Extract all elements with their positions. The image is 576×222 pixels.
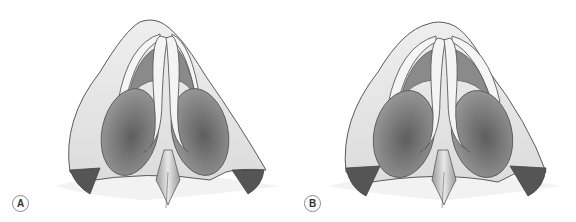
panel-label-a: A — [12, 195, 29, 212]
nose-illustration-b — [288, 0, 576, 222]
panel-label-b: B — [304, 195, 321, 212]
nose-illustration-a — [0, 0, 288, 222]
panel-b: B — [288, 0, 576, 222]
panel-a: A — [0, 0, 288, 222]
